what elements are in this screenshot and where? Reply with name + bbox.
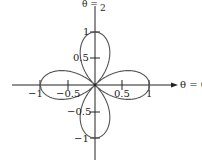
origin-dot: [94, 84, 97, 87]
theta-half-pi-label: θ =: [82, 0, 98, 9]
theta-half-pi-prefix: θ =: [82, 0, 98, 9]
x-tick-label-pos1: 1: [146, 89, 152, 99]
y-tick-label-pos1: 1: [83, 27, 89, 37]
x-tick-label-neg05: −0.5: [56, 89, 80, 99]
polar-plot: [0, 0, 202, 161]
theta-half-pi-den: 2: [100, 3, 106, 13]
x-axis-arrow-icon: [171, 83, 178, 88]
theta-zero-label: θ = 0: [180, 80, 202, 90]
y-tick-label-neg1: −1: [74, 134, 89, 144]
x-tick-label-neg1: −1: [28, 89, 43, 99]
x-tick-label-pos05: 0.5: [114, 89, 130, 99]
y-tick-label-pos05: 0.5: [73, 53, 89, 63]
y-tick-label-neg05: −0.5: [67, 107, 91, 117]
